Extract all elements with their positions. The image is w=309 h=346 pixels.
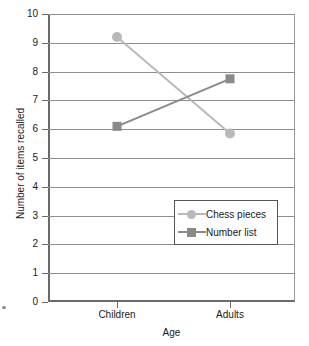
gridline-10 [48, 14, 295, 15]
y-tick-1 [42, 273, 48, 274]
y-tick-label-8: 8 [14, 67, 38, 77]
y-tick-2 [42, 244, 48, 245]
y-tick-7 [42, 100, 48, 101]
legend-label-number-list: Number list [206, 227, 257, 238]
legend-marker-number [187, 228, 196, 237]
y-tick-label-1: 1 [14, 268, 38, 278]
x-axis-title: Age [48, 327, 295, 338]
legend-marker-chess [187, 210, 196, 219]
gridline-6 [48, 129, 295, 130]
legend: Chess pieces Number list [174, 200, 278, 245]
y-tick-6 [42, 129, 48, 130]
y-tick-3 [42, 216, 48, 217]
gridline-9 [48, 43, 295, 44]
y-tick-5 [42, 158, 48, 159]
x-tick-label-children: Children [77, 310, 157, 320]
chart-figure: 012345678910 Number of items recalled Ch… [0, 0, 309, 346]
y-axis-title: Number of items recalled [15, 79, 26, 249]
square-marker-icon [178, 225, 206, 239]
gridline-5 [48, 158, 295, 159]
y-tick-10 [42, 14, 48, 15]
legend-label-chess-pieces: Chess pieces [206, 209, 266, 220]
legend-entry-number-list: Number list [175, 223, 277, 241]
y-tick-0 [42, 302, 48, 303]
y-tick-9 [42, 43, 48, 44]
y-tick-4 [42, 187, 48, 188]
y-tick-label-10: 10 [14, 9, 38, 19]
x-tick-adults [230, 302, 231, 308]
x-tick-label-adults: Adults [190, 310, 270, 320]
gridline-8 [48, 72, 295, 73]
x-tick-children [117, 302, 118, 308]
gridline-4 [48, 187, 295, 188]
legend-entry-chess-pieces: Chess pieces [175, 205, 277, 223]
gridline-7 [48, 100, 295, 101]
y-tick-label-0: 0 [14, 297, 38, 307]
gridline-1 [48, 273, 295, 274]
y-tick-label-9: 9 [14, 38, 38, 48]
y-tick-8 [42, 72, 48, 73]
scan-artifact [2, 306, 6, 309]
circle-marker-icon [178, 207, 206, 221]
